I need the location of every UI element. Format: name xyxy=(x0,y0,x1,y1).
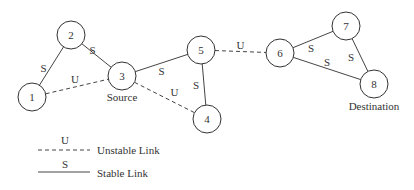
node-3: 3Source xyxy=(107,62,138,103)
legend-stable-label: Stable Link xyxy=(97,167,149,179)
edge-label: U xyxy=(171,86,179,98)
edge-label: S xyxy=(40,62,46,74)
node-caption-destination: Destination xyxy=(349,100,400,112)
node-4: 4 xyxy=(193,105,221,133)
edge-label: U xyxy=(71,73,79,85)
network-diagram: SSUSUSUSSS 123Source45678Destination U U… xyxy=(0,0,414,190)
edge-label: S xyxy=(158,65,164,77)
node-2: 2 xyxy=(57,21,85,49)
edge-label: S xyxy=(348,51,354,63)
legend-unstable: U Unstable Link xyxy=(38,134,160,156)
node-label: 4 xyxy=(204,113,210,125)
node-label: 2 xyxy=(68,29,74,41)
legend-unstable-label: Unstable Link xyxy=(97,144,160,156)
node-label: 6 xyxy=(277,47,283,59)
node-7: 7 xyxy=(332,12,360,40)
edge-label: U xyxy=(237,39,245,51)
edge-label: S xyxy=(89,44,95,56)
node-5: 5 xyxy=(187,36,215,64)
edge-6-8: S xyxy=(280,53,374,84)
legend-stable: S Stable Link xyxy=(38,158,149,179)
legend: U Unstable Link S Stable Link xyxy=(38,134,160,179)
legend-stable-symbol: S xyxy=(62,158,68,170)
node-label: 7 xyxy=(343,20,349,32)
node-label: 8 xyxy=(371,78,377,90)
node-label: 1 xyxy=(29,91,35,103)
node-caption-source: Source xyxy=(107,91,138,103)
edge-label: S xyxy=(193,79,199,91)
node-8: 8Destination xyxy=(349,70,400,112)
edge-label: S xyxy=(324,56,330,68)
node-label: 3 xyxy=(119,70,125,82)
node-6: 6 xyxy=(266,39,294,67)
node-label: 5 xyxy=(198,44,204,56)
node-1: 1 xyxy=(18,83,46,111)
edge-label: S xyxy=(308,42,314,54)
legend-unstable-symbol: U xyxy=(61,134,69,146)
